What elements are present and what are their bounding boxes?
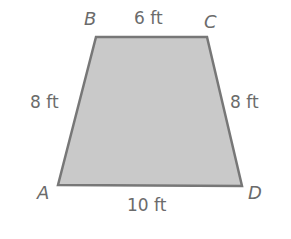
trapezoid-diagram: B C A D 6 ft 8 ft 8 ft 10 ft (0, 0, 291, 239)
side-label-ab: 8 ft (30, 94, 59, 111)
vertex-label-a: A (37, 184, 49, 202)
vertex-label-d: D (248, 184, 262, 202)
vertex-label-c: C (204, 13, 217, 31)
side-label-cd: 8 ft (230, 94, 259, 111)
side-label-bc: 6 ft (134, 10, 163, 27)
vertex-label-b: B (84, 10, 96, 28)
side-label-ad: 10 ft (127, 197, 166, 214)
trapezoid-abcd (58, 37, 242, 186)
